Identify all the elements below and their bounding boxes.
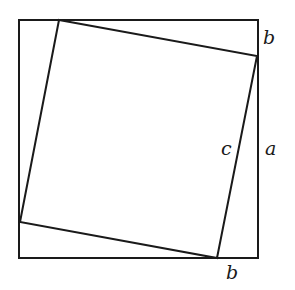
- pythagorean-diagram: b c a b: [0, 0, 295, 290]
- label-a: a: [265, 137, 276, 159]
- label-b-right: b: [263, 26, 275, 48]
- label-b-bottom: b: [226, 261, 238, 283]
- label-c: c: [221, 137, 232, 159]
